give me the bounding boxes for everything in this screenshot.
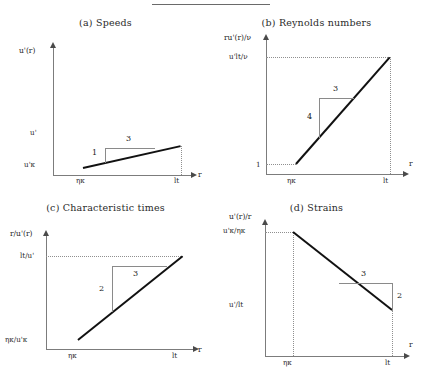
panel-d-x-axis	[265, 356, 405, 357]
panel-b-guide-horizontal-bottom	[266, 164, 296, 165]
panel-b-data-line	[295, 56, 391, 164]
panel-d-guide-horizontal	[265, 232, 293, 233]
panel-b-slope-run-leg	[319, 98, 354, 99]
panel-speeds: (a) Speeds u'(r) r u' u'κ ηκ lt 3 1	[0, 0, 211, 185]
panel-c-x-axis-label: r	[198, 345, 202, 354]
panel-c-slope-run-leg	[112, 266, 167, 267]
panel-b-x-axis	[266, 174, 404, 175]
panel-d-slope-rise-leg	[392, 283, 393, 310]
panel-characteristic-times: (c) Characteristic times r/u'(r) r lt/u'…	[0, 185, 211, 370]
panel-a-slope-run-label: 3	[126, 134, 131, 143]
panel-b-guide-horizontal-top	[266, 57, 390, 58]
panel-d-xtick-right: lt	[385, 358, 390, 367]
panel-a-x-axis-arrow-icon	[191, 172, 197, 178]
panel-d-x-axis-label: r	[409, 340, 413, 349]
panel-a-guide-vertical	[181, 146, 182, 175]
panel-d-x-axis-arrow-icon	[404, 353, 410, 359]
panel-a-xtick-left: ηκ	[76, 176, 85, 185]
panel-c-guide-horizontal	[46, 256, 183, 257]
panel-d-slope-rise-label: 2	[397, 291, 402, 300]
panel-a-y-axis-arrow-icon	[50, 42, 56, 48]
panel-a-slope-rise-label: 1	[92, 148, 97, 157]
panel-b-slope-rise-label: 4	[307, 112, 312, 121]
panel-c-slope-run-label: 3	[133, 269, 138, 278]
panel-b-y-axis-arrow-icon	[263, 34, 269, 40]
panel-a-x-axis	[53, 175, 192, 176]
panel-d-guide-vertical-right	[392, 310, 393, 356]
panel-c-y-axis-label: r/u'(r)	[10, 229, 32, 238]
panel-b-ytick-lower: 1	[256, 160, 261, 169]
panel-c-title: (c) Characteristic times	[0, 202, 211, 213]
panel-d-ytick-upper: u'κ/ηκ	[223, 226, 245, 235]
panel-d-xtick-left: ηκ	[283, 358, 292, 367]
panel-a-ytick-lower: u'κ	[24, 160, 35, 169]
panel-b-ytick-upper: u'lt/ν	[229, 52, 248, 61]
panel-c-y-axis	[46, 236, 47, 350]
panel-a-y-axis	[53, 48, 54, 176]
panel-b-xtick-left: ηκ	[287, 176, 296, 185]
panel-c-slope-rise-leg	[112, 266, 113, 312]
panel-a-x-axis-label: r	[198, 170, 202, 179]
panel-c-data-line	[77, 255, 183, 341]
panel-d-data-line	[292, 231, 392, 311]
panel-d-y-axis-arrow-icon	[262, 219, 268, 225]
panel-c-y-axis-arrow-icon	[43, 230, 49, 236]
panel-a-title: (a) Speeds	[0, 17, 211, 28]
panel-strains: (d) Strains u'(r)/r r u'κ/ηκ u'/lt ηκ lt…	[211, 185, 422, 370]
panel-d-slope-run-leg	[339, 283, 392, 284]
figure-turbulence-scaling: (a) Speeds u'(r) r u' u'κ ηκ lt 3 1 (b) …	[0, 0, 422, 370]
panel-a-xtick-right: lt	[174, 176, 179, 185]
panel-c-xtick-left: ηκ	[68, 351, 77, 360]
panel-d-y-axis	[265, 225, 266, 357]
panel-b-y-axis	[266, 40, 267, 175]
panel-a-slope-run-leg	[105, 148, 155, 149]
panel-c-xtick-right: lt	[172, 351, 177, 360]
panel-a-slope-rise-leg	[105, 148, 106, 163]
panel-b-xtick-right: lt	[383, 176, 388, 185]
panel-reynolds-numbers: (b) Reynolds numbers ru'(r)/ν r u'lt/ν 1…	[211, 0, 422, 185]
panel-c-x-axis	[46, 349, 194, 350]
panel-d-slope-run-label: 3	[361, 269, 366, 278]
panel-b-slope-rise-leg	[319, 98, 320, 138]
panel-b-x-axis-arrow-icon	[403, 171, 409, 177]
panel-d-y-axis-label: u'(r)/r	[229, 212, 251, 221]
panel-b-title: (b) Reynolds numbers	[211, 17, 422, 28]
panel-b-guide-vertical	[390, 57, 391, 174]
panel-b-x-axis-label: r	[409, 159, 413, 168]
panel-c-slope-rise-label: 2	[99, 284, 104, 293]
panel-d-guide-vertical-left	[293, 232, 294, 356]
panel-b-y-axis-label: ru'(r)/ν	[224, 33, 251, 42]
panel-b-slope-run-label: 3	[333, 84, 338, 93]
panel-a-ytick-upper: u'	[30, 128, 37, 137]
panel-c-ytick-lower: ηκ/u'κ	[5, 335, 27, 344]
panel-a-y-axis-label: u'(r)	[19, 46, 35, 55]
panel-d-ytick-lower: u'/lt	[229, 300, 243, 309]
panel-c-ytick-upper: lt/u'	[20, 251, 34, 260]
